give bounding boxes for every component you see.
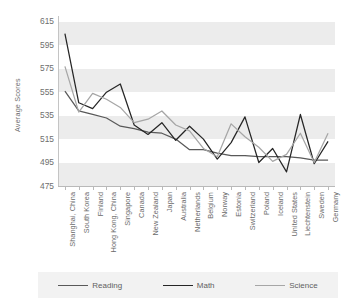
- x-axis-tick-label: Germany: [331, 192, 340, 222]
- x-axis-tick-label: Singapore: [123, 192, 132, 226]
- x-axis-tick: [93, 186, 94, 190]
- y-axis-tick-label: 475: [26, 182, 54, 190]
- x-axis-tick: [134, 186, 135, 190]
- pisa-scores-line-chart: Average Scores 475495515535555575595615 …: [0, 0, 343, 307]
- x-axis-tick: [314, 186, 315, 190]
- x-axis-tick: [217, 186, 218, 190]
- legend-item-math[interactable]: Math: [163, 281, 215, 290]
- x-axis-tick: [203, 186, 204, 190]
- plot-area: [58, 16, 335, 186]
- x-axis-tick-label: Estonia: [234, 192, 243, 217]
- series-lines: [58, 16, 335, 186]
- x-axis-tick: [148, 186, 149, 190]
- x-axis-tick: [162, 186, 163, 190]
- x-axis-tick-label: Canada: [137, 192, 146, 218]
- legend-line-icon: [255, 285, 285, 286]
- x-axis-tick: [245, 186, 246, 190]
- legend-line-icon: [163, 285, 193, 286]
- x-axis-tick: [300, 186, 301, 190]
- x-axis-tick: [259, 186, 260, 190]
- x-axis-tick-label: New Zealand: [151, 192, 160, 236]
- y-axis-tick-labels: 475495515535555575595615: [26, 0, 54, 307]
- series-line-reading: [65, 91, 328, 160]
- x-axis-line: [58, 186, 335, 187]
- x-axis-tick-label: Finland: [96, 192, 105, 216]
- x-axis-tick-label: Shanghai, China: [68, 192, 77, 247]
- x-axis-tick: [120, 186, 121, 190]
- y-axis-tick-label: 555: [26, 88, 54, 96]
- x-axis-tick-label: Belgium: [206, 192, 215, 219]
- y-axis-tick-label: 615: [26, 17, 54, 25]
- x-axis-tick: [65, 186, 66, 190]
- x-axis-tick-label: United States: [290, 192, 299, 236]
- x-axis-tick: [287, 186, 288, 190]
- chart-legend: ReadingMathScience: [38, 272, 338, 298]
- x-axis-tick-label: Japan: [165, 192, 174, 212]
- x-axis-tick-label: Norway: [220, 192, 229, 217]
- x-axis-tick: [231, 186, 232, 190]
- x-axis-tick: [176, 186, 177, 190]
- y-axis-tick-label: 495: [26, 158, 54, 166]
- x-axis-tick-label: Australia: [179, 192, 188, 221]
- x-axis-tick: [273, 186, 274, 190]
- x-axis-tick: [190, 186, 191, 190]
- y-axis-title: Average Scores: [13, 78, 22, 132]
- y-axis-tick-label: 595: [26, 41, 54, 49]
- series-line-science: [65, 66, 328, 162]
- x-axis-tick-label: Hong Kong, China: [109, 192, 118, 252]
- x-axis-tick: [79, 186, 80, 190]
- x-axis-tick-label: Liechtenstein: [303, 192, 312, 236]
- x-axis-tick-label: Switzerland: [248, 192, 257, 230]
- legend-line-icon: [58, 285, 88, 286]
- y-axis-tick-label: 575: [26, 64, 54, 72]
- x-axis-tick-label: Iceland: [276, 192, 285, 216]
- x-axis-tick-label: Poland: [262, 192, 271, 215]
- legend-label: Science: [289, 281, 317, 290]
- x-axis-tick-label: Netherlands: [193, 192, 202, 232]
- x-axis-tick: [328, 186, 329, 190]
- y-axis-line: [58, 16, 59, 186]
- x-axis-tick-label: Sweden: [317, 192, 326, 219]
- x-axis-tick-label: South Korea: [82, 192, 91, 233]
- y-axis-tick-label: 515: [26, 135, 54, 143]
- legend-item-reading[interactable]: Reading: [58, 281, 122, 290]
- legend-label: Reading: [92, 281, 122, 290]
- legend-item-science[interactable]: Science: [255, 281, 317, 290]
- legend-label: Math: [197, 281, 215, 290]
- y-axis-tick-label: 535: [26, 111, 54, 119]
- x-axis-tick: [106, 186, 107, 190]
